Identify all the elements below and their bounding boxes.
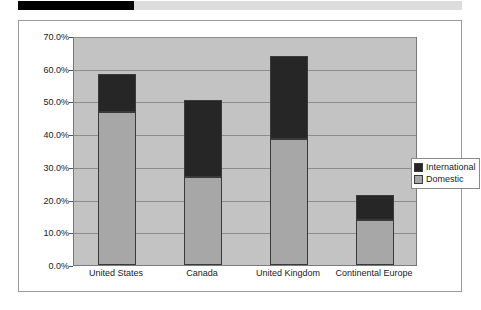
y-axis-tick-label: 30.0% [23, 163, 69, 173]
x-axis: United StatesCanadaUnited KingdomContine… [73, 268, 417, 284]
legend-item[interactable]: International [414, 161, 476, 173]
y-axis-tick-label: 20.0% [23, 196, 69, 206]
bar-segment-domestic[interactable] [270, 139, 308, 265]
x-axis-tick-label: United Kingdom [256, 268, 320, 278]
bar-segment-domestic[interactable] [184, 177, 222, 265]
legend-label: Domestic [426, 174, 464, 184]
x-axis-tick-label: United States [89, 268, 143, 278]
bar-group[interactable] [270, 36, 308, 265]
chart-frame: 0.0%10.0%20.0%30.0%40.0%50.0%60.0%70.0% … [18, 20, 462, 292]
bar-segment-international[interactable] [270, 56, 308, 139]
top-banner [0, 0, 481, 11]
y-axis-tick-label: 0.0% [23, 261, 69, 271]
x-axis-tick-label: Continental Europe [335, 268, 412, 278]
legend-swatch-icon [414, 163, 423, 172]
legend-label: International [426, 162, 476, 172]
bar-segment-domestic[interactable] [98, 112, 136, 265]
y-axis-tick-label: 70.0% [23, 32, 69, 42]
y-axis-tick-mark [69, 266, 73, 267]
y-axis: 0.0%10.0%20.0%30.0%40.0%50.0%60.0%70.0% [19, 37, 69, 266]
bar-segment-international[interactable] [98, 74, 136, 112]
bar-group[interactable] [98, 36, 136, 265]
plot-area [73, 37, 417, 266]
y-axis-tick-label: 50.0% [23, 97, 69, 107]
bar-segment-international[interactable] [184, 100, 222, 178]
x-axis-tick-label: Canada [186, 268, 218, 278]
legend-swatch-icon [414, 175, 423, 184]
y-axis-tick-label: 10.0% [23, 228, 69, 238]
bar-group[interactable] [184, 36, 222, 265]
y-axis-tick-label: 40.0% [23, 130, 69, 140]
bar-segment-domestic[interactable] [356, 220, 394, 265]
y-axis-tick-label: 60.0% [23, 65, 69, 75]
chart-legend: InternationalDomestic [411, 158, 480, 189]
banner-dark-band [18, 1, 134, 10]
bar-segment-international[interactable] [356, 195, 394, 220]
legend-item[interactable]: Domestic [414, 173, 476, 185]
bar-group[interactable] [356, 36, 394, 265]
